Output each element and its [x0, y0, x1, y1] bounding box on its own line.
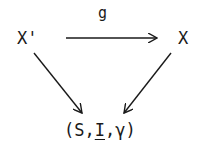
arrow-left-diagonal [34, 53, 82, 113]
paren-close: ) [126, 120, 136, 140]
paren-open: ( [64, 120, 74, 140]
comma-1: , [85, 120, 95, 140]
edge-label-g: g [98, 6, 107, 21]
comma-2: , [105, 120, 115, 140]
commutative-diagram: g X' X (S,I,γ) [0, 0, 208, 153]
arrow-right-diagonal [124, 53, 171, 113]
node-triple: (S,I,γ) [64, 122, 136, 139]
node-gamma: γ [115, 120, 125, 140]
node-x: X [178, 30, 188, 47]
node-s: S [74, 120, 84, 140]
node-x-prime: X' [17, 30, 37, 47]
node-i-underlined: I [95, 120, 105, 140]
